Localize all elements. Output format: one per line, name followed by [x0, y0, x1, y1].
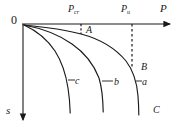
- p-u-label-sub: u: [127, 8, 130, 15]
- s-axis-label: s: [6, 105, 10, 116]
- origin-label: 0: [11, 14, 17, 26]
- point-b-label: B: [141, 62, 147, 72]
- curve-c-label: c: [75, 76, 79, 86]
- p-cr-label: Pcr: [68, 4, 79, 14]
- p-axis-label: P: [160, 3, 167, 14]
- point-c-label: C: [153, 105, 160, 115]
- point-a-label: A: [86, 25, 92, 35]
- curve-a-label: a: [142, 77, 147, 87]
- p-u-label: Pu: [121, 4, 130, 14]
- load-settlement-figure: P s 0 Pcr Pu A B C a b c: [0, 0, 187, 130]
- curve-b-label: b: [114, 77, 119, 87]
- p-cr-label-sub: cr: [74, 8, 79, 15]
- curve-a-path: [24, 25, 139, 115]
